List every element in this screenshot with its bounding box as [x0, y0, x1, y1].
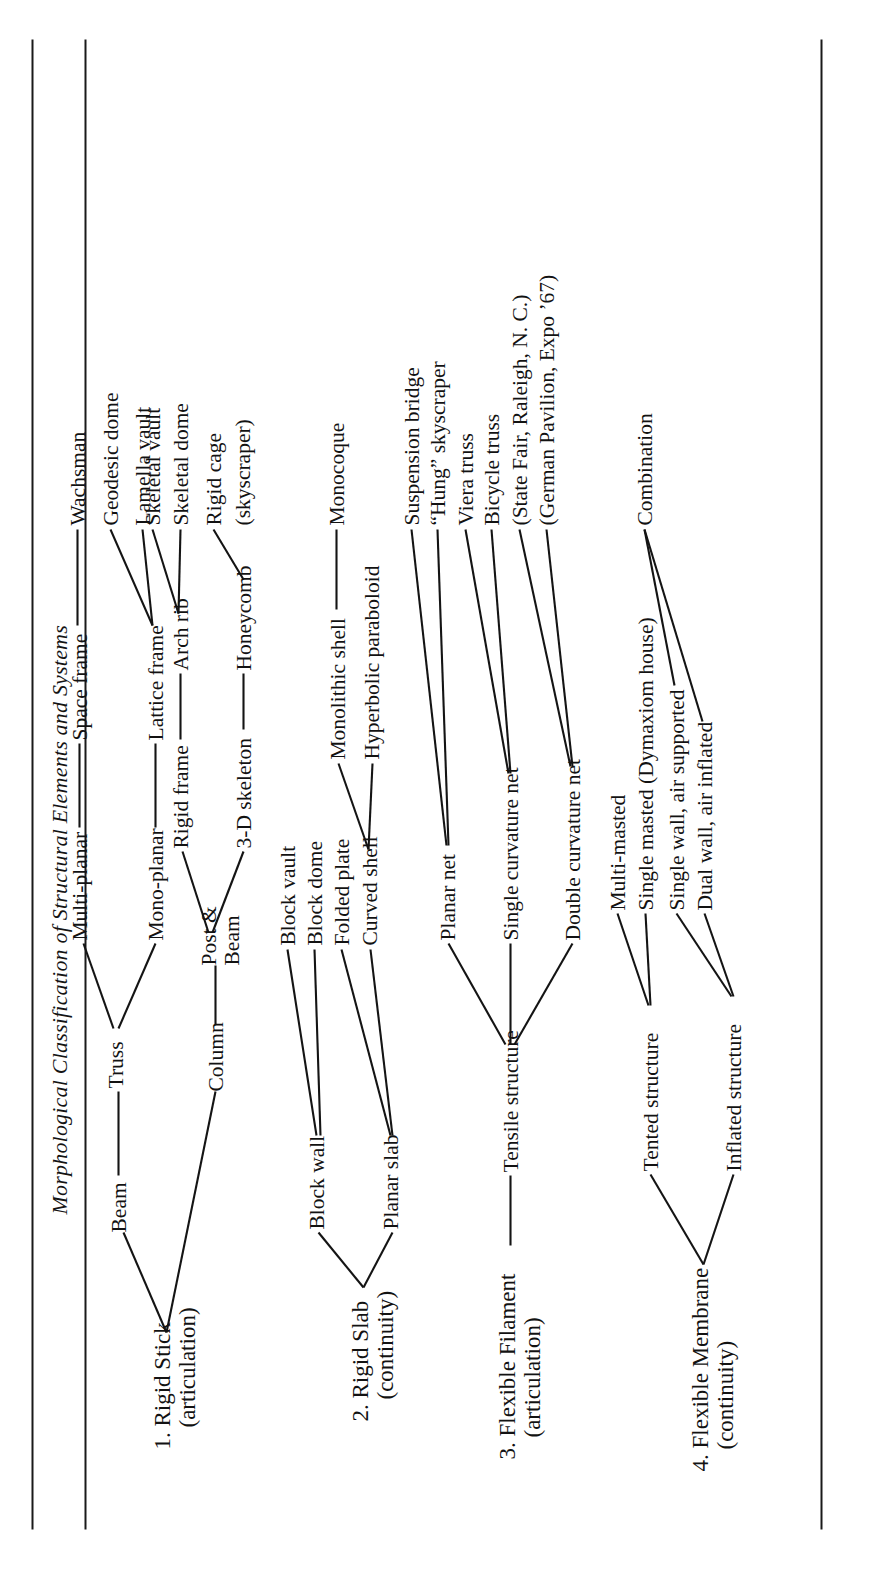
group-2-label: 2. Rigid Slab (continuity)	[348, 1290, 398, 1421]
group-2-qualifier: (continuity)	[373, 1290, 398, 1399]
node-german-pavilion: (German Pavilion, Expo ’67)	[535, 274, 558, 525]
group-4-label: 4. Flexible Membrane (continuity)	[688, 1267, 738, 1471]
node-suspension-bridge: Suspension bridge	[400, 367, 423, 525]
group-1-label: 1. Rigid Stick (articulation)	[150, 1307, 200, 1449]
node-planar-slab: Planar slab	[379, 1134, 402, 1229]
node-geodesic-dome: Geodesic dome	[99, 392, 122, 525]
node-post-and-beam-line2: Beam	[220, 906, 243, 965]
rule-top-outer	[31, 39, 33, 1529]
node-rigid-frame: Rigid frame	[169, 745, 192, 848]
node-rigid-cage: Rigid cage	[202, 432, 225, 525]
node-beam: Beam	[107, 1182, 130, 1232]
node-column: Column	[204, 1022, 227, 1091]
group-2-name: Rigid Slab	[347, 1300, 372, 1398]
node-planar-net: Planar net	[436, 853, 459, 940]
group-1-qualifier: (articulation)	[175, 1307, 200, 1427]
node-truss: Truss	[104, 1041, 127, 1088]
node-dual-wall: Dual wall, air inflated	[693, 721, 716, 910]
node-state-fair: (State Fair, Raleigh, N. C.)	[508, 294, 531, 525]
node-curved-shell: Curved shell	[358, 836, 381, 945]
node-3d-skeleton: 3-D skeleton	[232, 738, 255, 848]
group-4-number: 4.	[687, 1454, 712, 1471]
group-3-name: Flexible Filament	[494, 1273, 519, 1436]
node-block-dome: Block dome	[303, 841, 326, 946]
node-tensile-structure: Tensile structure	[499, 1030, 522, 1172]
group-3-qualifier: (articulation)	[520, 1273, 545, 1437]
node-monocoque: Monocoque	[325, 422, 348, 525]
group-4-qualifier: (continuity)	[713, 1267, 738, 1449]
node-skyscraper: (skyscraper)	[231, 419, 254, 525]
node-skeletal-dome: Skeletal dome	[169, 403, 192, 525]
node-multi-masted: Multi-masted	[606, 794, 629, 910]
group-4-name: Flexible Membrane	[687, 1267, 712, 1448]
node-double-curvature-net: Double curvature net	[561, 759, 584, 940]
node-inflated-structure: Inflated structure	[722, 1024, 745, 1171]
node-post-and-beam: Post & Beam	[197, 906, 243, 965]
group-3-label: 3. Flexible Filament (articulation)	[495, 1273, 545, 1459]
node-mono-planar: Mono-planar	[144, 828, 167, 940]
node-multi-planar: Multi-planar	[68, 831, 91, 940]
node-folded-plate: Folded plate	[330, 838, 353, 945]
figure-stage: Morphological Classification of Structur…	[0, 0, 869, 1569]
node-single-wall: Single wall, air supported	[665, 689, 688, 910]
node-wachsman: Wachsman	[66, 431, 89, 525]
node-block-wall: Block wall	[305, 1135, 328, 1229]
node-block-vault: Block vault	[276, 845, 299, 945]
node-space-frame: Space frame	[68, 633, 91, 740]
connector-lines	[0, 0, 869, 1569]
node-hyperbolic-paraboloid: Hyperbolic paraboloid	[360, 565, 383, 759]
node-combination: Combination	[633, 413, 656, 525]
group-2-number: 2.	[347, 1404, 372, 1421]
node-viera-truss: Viera truss	[454, 433, 477, 525]
node-tented-structure: Tented structure	[639, 1032, 662, 1171]
group-1-number: 1.	[149, 1432, 174, 1449]
node-monolithic-shell: Monolithic shell	[326, 617, 349, 759]
node-arch-rib: Arch rib	[169, 598, 192, 670]
rule-bottom	[820, 39, 822, 1529]
node-skeletal-vault: Skeletal vault	[141, 407, 164, 525]
node-lattice-frame: Lattice frame	[144, 625, 167, 740]
rule-top-inner	[84, 39, 86, 1529]
node-honeycomb: Honeycomb	[232, 565, 255, 670]
node-single-masted: Single masted (Dymaxiom house)	[634, 617, 657, 910]
node-bicycle-truss: Bicycle truss	[480, 413, 503, 525]
group-3-number: 3.	[494, 1442, 519, 1459]
node-single-curvature-net: Single curvature net	[499, 767, 522, 940]
node-hung-skyscraper: “Hung” skyscraper	[426, 361, 449, 525]
group-1-name: Rigid Stick	[149, 1322, 174, 1426]
node-post-and-beam-line1: Post &	[196, 906, 220, 965]
